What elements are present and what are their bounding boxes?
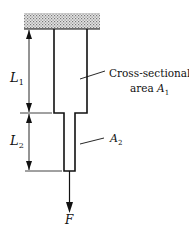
dimension-L2 [25, 114, 62, 171]
leader-A2 [80, 138, 104, 144]
label-cross-sectional: Cross-sectional [109, 67, 189, 79]
fixed-support [24, 13, 100, 29]
dimension-L1 [20, 30, 52, 113]
force-arrow [66, 171, 73, 213]
label-L2: L2 [9, 133, 24, 150]
label-area-A1: area A1 [130, 82, 169, 97]
leader-A1 [80, 71, 105, 79]
stepped-bar [54, 29, 87, 171]
label-L1: L1 [9, 70, 24, 87]
stepped-bar-diagram: L1 L2 Cross-sectional area A1 A2 F [0, 0, 189, 241]
label-A2: A2 [109, 132, 122, 147]
label-force-F: F [64, 213, 74, 227]
